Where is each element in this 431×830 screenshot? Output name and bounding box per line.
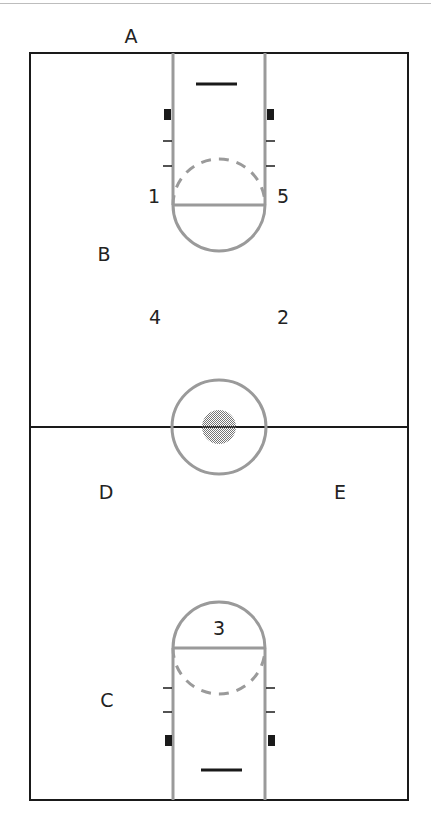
position-1: 1 bbox=[148, 187, 160, 206]
court-label-a: A bbox=[125, 27, 138, 46]
position-2: 2 bbox=[277, 308, 289, 327]
position-4: 4 bbox=[149, 308, 161, 327]
block-left-top bbox=[164, 109, 171, 120]
court-label-e: E bbox=[334, 483, 346, 502]
block-left-bottom bbox=[165, 735, 172, 746]
court-label-c: C bbox=[100, 691, 113, 710]
center-dot bbox=[202, 410, 236, 444]
court-label-d: D bbox=[99, 483, 114, 502]
block-right-bottom bbox=[268, 735, 275, 746]
court-label-b: B bbox=[97, 245, 110, 264]
position-5: 5 bbox=[277, 187, 289, 206]
court-diagram bbox=[0, 0, 431, 830]
top-key bbox=[163, 53, 275, 251]
block-right-top bbox=[267, 109, 274, 120]
position-3: 3 bbox=[213, 619, 225, 638]
